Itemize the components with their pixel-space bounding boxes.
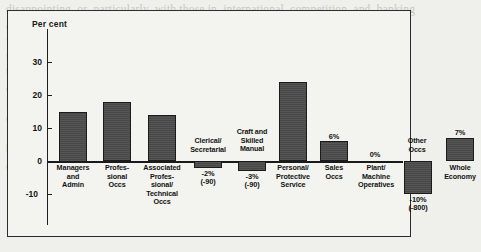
- y-axis-line: [47, 29, 48, 225]
- chart-frame: Per cent 30 20 10 0 -10 15% (+630) Manag…: [7, 10, 411, 237]
- y-tick-20: [47, 95, 52, 96]
- bar-professional-occs[interactable]: [103, 102, 131, 161]
- bar-category-label: Craft and Skilled Manual: [227, 128, 277, 154]
- bar-category-label: Associated Profes- sional/ Technical Occ…: [136, 164, 188, 207]
- y-tick-label-30: 30: [16, 57, 42, 67]
- y-tick-neg10: [47, 194, 52, 195]
- zero-baseline: [47, 161, 403, 163]
- bar-associated-professional-technical-occs[interactable]: [148, 115, 176, 161]
- bar-category-label: Managers and Admin: [49, 164, 97, 190]
- bar-personal-protective-service[interactable]: [279, 82, 307, 161]
- bar-sales-occs[interactable]: [320, 141, 348, 161]
- bar-value-label: -2% (-90): [186, 170, 230, 187]
- bar-category-label: Whole Economy: [434, 164, 481, 181]
- y-tick-label-20: 20: [16, 90, 42, 100]
- bar-abs: (-90): [244, 180, 259, 189]
- bar-value-label: 0%: [353, 151, 397, 159]
- bar-clerical-secretarial[interactable]: [194, 161, 222, 168]
- bar-craft-and-skilled-manual[interactable]: [238, 161, 266, 171]
- bar-whole-economy[interactable]: [446, 138, 474, 161]
- bar-other-occs[interactable]: [404, 161, 432, 194]
- y-tick-label-10: 10: [16, 123, 42, 133]
- y-axis-title: Per cent: [32, 19, 67, 29]
- bar-pct: 0%: [370, 150, 380, 159]
- bar-category-label: Plant/ Machine Operatives: [350, 164, 402, 190]
- y-tick-label-0: 0: [16, 156, 42, 166]
- y-tick-30: [47, 62, 52, 63]
- bar-managers-and-admin[interactable]: [59, 112, 87, 162]
- bar-value-label: -10% (-800): [396, 196, 440, 213]
- bar-abs: (-800): [408, 203, 427, 212]
- bar-abs: (-90): [200, 177, 215, 186]
- bar-category-label: Other Occs: [395, 137, 439, 154]
- bar-category-label: Profes- sional Occs: [93, 164, 141, 190]
- y-tick-label-neg10: -10: [12, 189, 38, 199]
- plot-area: Per cent 30 20 10 0 -10 15% (+630) Manag…: [8, 11, 410, 236]
